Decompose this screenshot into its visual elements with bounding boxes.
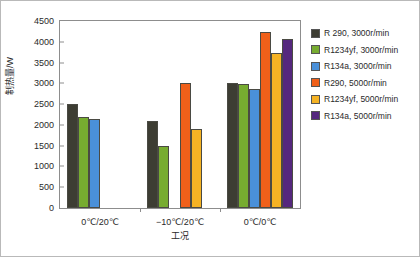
legend-item[interactable]: R290, 5000r/min xyxy=(311,75,419,92)
bar-slot xyxy=(122,21,133,208)
y-axis-tick-mark xyxy=(60,62,64,63)
bar[interactable] xyxy=(180,83,191,208)
legend-item[interactable]: R134a, 3000r/min xyxy=(311,58,419,75)
y-axis-tick-mark xyxy=(60,83,64,84)
bar[interactable] xyxy=(89,119,100,208)
legend-swatch-icon xyxy=(311,78,320,87)
legend-label: R 290, 3000r/min xyxy=(324,29,389,38)
y-axis-tick-label: 1000 xyxy=(34,161,54,171)
y-axis-tick-label: 2500 xyxy=(34,99,54,109)
x-axis-tick-label: 0℃/20℃ xyxy=(81,217,119,227)
bar-slot xyxy=(260,21,271,208)
legend-label: R290, 5000r/min xyxy=(324,79,387,88)
y-axis-tick-label: 1500 xyxy=(34,141,54,151)
x-axis-title: 工况 xyxy=(59,229,301,242)
y-axis-tick-mark xyxy=(60,166,64,167)
legend-swatch-icon xyxy=(311,111,320,120)
y-axis-tick-label: 0 xyxy=(49,203,54,213)
bar-slot xyxy=(202,21,213,208)
legend-item[interactable]: R 290, 3000r/min xyxy=(311,25,419,42)
bar[interactable] xyxy=(158,146,169,208)
bar-slot xyxy=(282,21,293,208)
x-axis-tick-mark xyxy=(220,208,221,212)
legend-swatch-icon xyxy=(311,45,320,54)
bar-slot xyxy=(249,21,260,208)
bar[interactable] xyxy=(260,32,271,208)
legend-label: R1234yf, 5000r/min xyxy=(324,95,398,104)
y-axis-tick-mark xyxy=(60,104,64,105)
bar-slot xyxy=(89,21,100,208)
legend-swatch-icon xyxy=(311,29,320,38)
bar[interactable] xyxy=(78,117,89,208)
bar-group xyxy=(227,21,293,208)
legend-swatch-icon xyxy=(311,62,320,71)
legend-swatch-icon xyxy=(311,95,320,104)
bar-slot xyxy=(67,21,78,208)
y-axis-tick-label: 500 xyxy=(39,182,54,192)
y-axis-tick-mark xyxy=(60,187,64,188)
y-axis-title: 制热量/W xyxy=(3,34,17,118)
bar[interactable] xyxy=(227,83,238,208)
legend-item[interactable]: R134a, 5000r/min xyxy=(311,108,419,125)
plot-area: 0500100015002000250030003500400045000℃/2… xyxy=(59,20,301,209)
bar[interactable] xyxy=(238,84,249,208)
y-axis-tick-label: 4500 xyxy=(34,16,54,26)
bar[interactable] xyxy=(249,89,260,208)
bar[interactable] xyxy=(191,129,202,208)
y-axis-tick-label: 3500 xyxy=(34,58,54,68)
bar[interactable] xyxy=(282,39,293,208)
y-axis-tick-label: 2000 xyxy=(34,120,54,130)
x-axis-tick-mark xyxy=(140,208,141,212)
bar[interactable] xyxy=(67,104,78,208)
y-axis-tick-mark xyxy=(60,124,64,125)
legend-item[interactable]: R1234yf, 5000r/min xyxy=(311,91,419,108)
x-axis-tick-label: −10℃/20℃ xyxy=(156,217,204,227)
plot-inner: 0500100015002000250030003500400045000℃/2… xyxy=(60,21,300,208)
bar[interactable] xyxy=(271,53,282,208)
bar-slot xyxy=(78,21,89,208)
bar-slot xyxy=(271,21,282,208)
chart-figure: 制热量/W 0500100015002000250030003500400045… xyxy=(0,0,420,257)
bar-group xyxy=(147,21,213,208)
y-axis-tick-label: 3000 xyxy=(34,78,54,88)
y-axis-tick-mark xyxy=(60,145,64,146)
bar-slot xyxy=(147,21,158,208)
legend-item[interactable]: R1234yf, 3000r/min xyxy=(311,42,419,59)
legend-label: R134a, 5000r/min xyxy=(324,112,392,121)
bar-slot xyxy=(100,21,111,208)
y-axis-tick-label: 4000 xyxy=(34,37,54,47)
bar-group xyxy=(67,21,133,208)
bar-slot xyxy=(111,21,122,208)
bar-slot xyxy=(227,21,238,208)
bar-slot xyxy=(169,21,180,208)
bar-slot xyxy=(238,21,249,208)
x-axis-tick-label: 0℃/0℃ xyxy=(244,217,277,227)
bar-slot xyxy=(191,21,202,208)
y-axis-tick-mark xyxy=(60,41,64,42)
bar-slot xyxy=(180,21,191,208)
legend-label: R134a, 3000r/min xyxy=(324,62,392,71)
chart-legend: R 290, 3000r/minR1234yf, 3000r/minR134a,… xyxy=(311,25,419,124)
bar[interactable] xyxy=(147,121,158,208)
bar-slot xyxy=(158,21,169,208)
legend-label: R1234yf, 3000r/min xyxy=(324,46,398,55)
